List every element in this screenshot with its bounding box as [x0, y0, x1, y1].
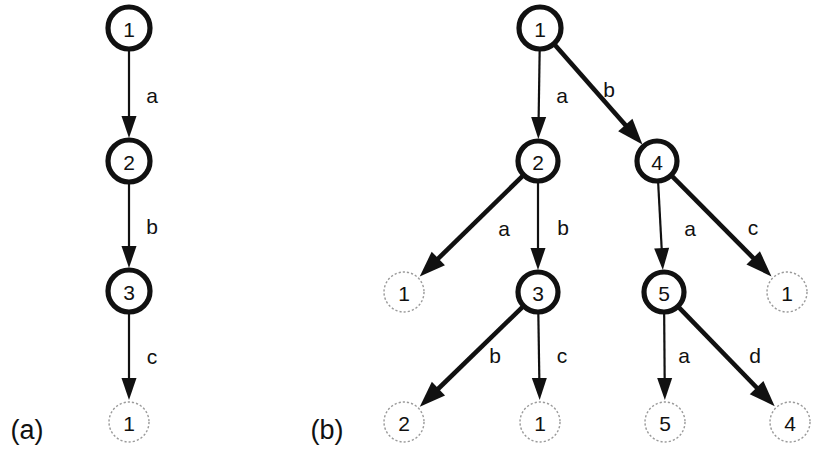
edges-layer	[122, 45, 775, 407]
panel-captions-layer: (a)(b)	[11, 415, 344, 445]
nodes-layer: 123112413512154	[108, 7, 810, 442]
graph-node[interactable]: 2	[108, 140, 150, 182]
node-label: 5	[659, 412, 671, 435]
edge-label: b	[489, 344, 501, 367]
panel-caption-a: (a)	[11, 415, 44, 445]
graph-node[interactable]: 2	[518, 141, 558, 181]
graph-node[interactable]: 1	[108, 7, 150, 49]
edge-labels-layer: abcababacbcad	[146, 78, 761, 368]
node-label: 1	[534, 18, 546, 41]
graph-node-leaf[interactable]: 2	[384, 402, 424, 442]
arrow-head-icon	[657, 378, 672, 400]
arrow-head-icon	[654, 248, 669, 270]
node-label: 1	[534, 412, 546, 435]
graph-node[interactable]: 1	[519, 7, 561, 49]
edge-label: b	[603, 78, 615, 101]
edge-label: c	[748, 216, 759, 239]
tree-figure-container: 123112413512154 abcababacbcad (a)(b)	[0, 0, 833, 452]
node-label: 3	[532, 282, 544, 305]
edge-label: a	[146, 84, 158, 107]
arrow-head-icon	[122, 378, 137, 400]
graph-node-leaf[interactable]: 1	[520, 402, 560, 442]
graph-edge	[122, 183, 137, 268]
edge-label: c	[557, 344, 568, 367]
arrow-head-icon	[122, 246, 137, 268]
node-label: 1	[781, 282, 793, 305]
node-label: 2	[123, 151, 135, 174]
graph-node[interactable]: 3	[518, 272, 558, 312]
graph-node-leaf[interactable]: 4	[770, 402, 810, 442]
graph-node[interactable]: 4	[637, 141, 677, 181]
arrow-head-icon	[532, 378, 547, 400]
graph-edge	[654, 182, 669, 270]
graph-node-leaf[interactable]: 1	[384, 272, 424, 312]
graph-edge	[657, 313, 672, 400]
node-label: 1	[398, 282, 410, 305]
arrow-head-icon	[531, 248, 546, 270]
edge-label: a	[498, 217, 510, 240]
arrow-head-icon	[122, 116, 137, 138]
node-label: 3	[123, 281, 135, 304]
node-label: 2	[398, 412, 410, 435]
node-label: 1	[123, 18, 135, 41]
edge-label: a	[678, 344, 690, 367]
graph-node-leaf[interactable]: 5	[645, 402, 685, 442]
arrow-head-icon	[531, 117, 546, 139]
graph-node[interactable]: 5	[644, 272, 684, 312]
node-label: 2	[532, 151, 544, 174]
graph-edge	[532, 313, 547, 400]
edge-label: a	[684, 217, 696, 240]
graph-node-leaf[interactable]: 1	[767, 272, 807, 312]
node-label: 4	[784, 412, 796, 435]
edge-label: c	[147, 345, 158, 368]
graph-edge	[531, 182, 546, 270]
node-label: 5	[658, 282, 670, 305]
edge-label: d	[749, 344, 761, 367]
graph-node[interactable]: 3	[108, 270, 150, 312]
graph-edge	[420, 307, 523, 407]
node-label: 1	[123, 412, 135, 435]
graph-edge	[122, 50, 137, 138]
panel-caption-b: (b)	[311, 415, 344, 445]
edge-label: b	[146, 215, 158, 238]
graph-edge	[122, 313, 137, 400]
edge-label: a	[556, 84, 568, 107]
graph-canvas: 123112413512154 abcababacbcad (a)(b)	[0, 0, 833, 452]
graph-edge	[531, 50, 546, 139]
graph-node-leaf[interactable]: 1	[109, 402, 149, 442]
node-label: 4	[651, 151, 663, 174]
edge-label: b	[557, 216, 569, 239]
